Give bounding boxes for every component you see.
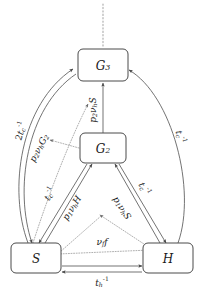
edge-label-p1vhH: p1νhH [60,193,83,222]
edge-label-p2vhS: p2νhS [88,97,98,122]
node-g3[interactable]: G3 [78,49,128,81]
flow-diagram-svg: G3 G2 S H 2tc-1p2νhG2tc-1p1νhHp2νhSp1νhS… [0,0,203,294]
node-h[interactable]: H [143,243,193,273]
node-g2[interactable]: G2 [80,133,126,163]
node-s[interactable]: S [11,243,61,273]
node-h-label: H [162,252,174,266]
edge-label-p2vhG2: p2νhG2 [27,132,50,164]
edge-dotted-s-to-g3 [33,104,88,243]
edge-label-th-inv: th-1 [95,275,109,288]
edge-h-to-g3 [129,70,184,243]
edge-dotted-s-dep-right [58,250,150,254]
edge-label-tc-inv-mid: tc-1 [137,179,155,197]
node-s-label: S [32,252,40,266]
edge-s-to-g2 [45,164,92,243]
edge-label-p1vhS: p1νhS [111,194,133,221]
edge-dotted-g2-dep-left [50,140,79,148]
edge-label-vff: νff [96,237,109,248]
edge-label-tc-inv-left: tc-1 [39,184,57,202]
diagram-canvas: G3 G2 S H 2tc-1p2νhG2tc-1p1νhHp2νhSp1νhS… [0,0,203,294]
